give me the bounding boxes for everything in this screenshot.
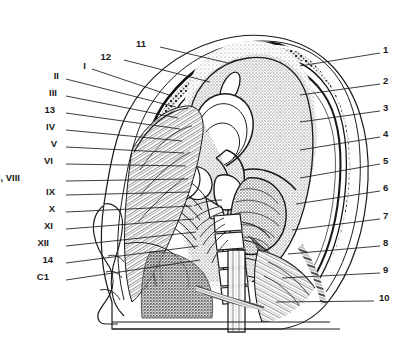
anatomy-illustration	[0, 0, 411, 348]
label-left-13: 13	[44, 105, 55, 115]
label-right-7: 7	[383, 211, 388, 221]
label-top-12: 12	[100, 52, 111, 62]
label-right-8: 8	[383, 238, 388, 248]
label-left-14: 14	[42, 255, 53, 265]
label-right-10: 10	[379, 293, 390, 303]
label-right-2: 2	[383, 76, 388, 86]
label-right-1: 1	[383, 45, 388, 55]
label-left-xii: XII	[37, 238, 49, 248]
label-left-v: V	[51, 139, 57, 149]
label-left-vii-viii: VII, VIII	[0, 173, 20, 183]
figure-canvas: IIIIII13IVVVIVII, VIIIIXXXIXII14C1 12345…	[0, 0, 411, 348]
label-right-6: 6	[383, 183, 388, 193]
label-left-xi: XI	[44, 221, 53, 231]
label-left-x: X	[49, 204, 55, 214]
label-left-c1: C1	[37, 272, 49, 282]
label-left-iv: IV	[46, 122, 55, 132]
label-right-3: 3	[383, 103, 388, 113]
label-right-9: 9	[383, 265, 388, 275]
label-left-iii: III	[49, 88, 57, 98]
label-right-4: 4	[383, 129, 388, 139]
label-left-ix: IX	[46, 187, 55, 197]
label-left-vi: VI	[44, 156, 53, 166]
label-left-i: I	[83, 61, 86, 71]
label-top-11: 11	[136, 39, 146, 49]
label-right-5: 5	[383, 156, 388, 166]
label-left-ii: II	[54, 71, 59, 81]
